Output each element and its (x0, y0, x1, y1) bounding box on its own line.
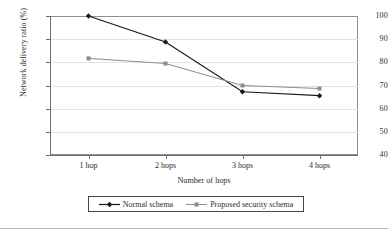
data-point-marker (318, 87, 322, 91)
x-axis-tick (243, 155, 244, 159)
data-point-marker (317, 93, 322, 98)
legend-entry-normal-schema[interactable]: Normal schema (99, 200, 173, 209)
series-normal-schema (86, 13, 322, 98)
chart-legend: Normal schemaProposed security schema (88, 196, 304, 212)
y-axis-tick (46, 109, 50, 110)
data-point-marker (87, 56, 91, 60)
y-axis-tick-label: 80 (346, 58, 388, 66)
y-axis-tick (46, 16, 50, 17)
data-point-marker (164, 61, 168, 65)
legend-label: Proposed security schema (210, 200, 293, 209)
plot-area (50, 16, 358, 155)
series-line (89, 16, 320, 96)
page-divider-rule (0, 228, 388, 229)
figure-line-chart: 405060708090100 Network delivery ratio (… (0, 0, 388, 235)
legend-swatch-icon (186, 200, 207, 209)
y-axis-title: Network delivery ratio (%) (19, 0, 28, 123)
data-point-marker (241, 84, 245, 88)
x-axis-tick (89, 155, 90, 159)
y-axis-tick (46, 62, 50, 63)
y-axis-tick-label: 60 (346, 105, 388, 113)
legend-entry-proposed-security-schema[interactable]: Proposed security schema (186, 200, 293, 209)
series-layer (50, 16, 358, 155)
x-axis-tick-label: 2 hops (136, 161, 196, 170)
x-axis-tick (166, 155, 167, 159)
y-axis-tick-label: 70 (346, 82, 388, 90)
x-axis-tick (320, 155, 321, 159)
series-line (89, 58, 320, 88)
y-axis-tick-label: 50 (346, 128, 388, 136)
y-axis-tick-label: 100 (346, 12, 388, 20)
series-proposed-security-schema (87, 56, 322, 90)
y-axis-tick (46, 132, 50, 133)
y-axis-tick (46, 86, 50, 87)
x-axis-line (50, 155, 358, 156)
x-axis-title: Number of hops (50, 176, 358, 186)
x-axis-tick-label: 3 hops (213, 161, 273, 170)
x-axis-tick-label: 4 hops (290, 161, 350, 170)
y-axis-tick (46, 39, 50, 40)
x-axis-tick-label: 1 hop (59, 161, 119, 170)
y-axis-line (50, 16, 51, 155)
legend-swatch-icon (99, 200, 120, 209)
legend-label: Normal schema (123, 200, 173, 209)
data-point-marker (86, 13, 91, 18)
y-axis-tick-label: 90 (346, 35, 388, 43)
